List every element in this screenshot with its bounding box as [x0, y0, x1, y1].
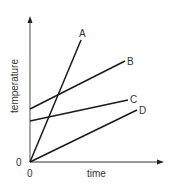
series-label-b: B [127, 56, 134, 67]
origin-label-x: 0 [27, 168, 33, 179]
series-line-b [30, 61, 125, 109]
series-label-c: C [130, 94, 137, 105]
series-label-d: D [139, 105, 146, 116]
origin-label-y: 0 [16, 157, 22, 168]
x-axis-arrow-icon [157, 160, 164, 165]
y-axis-arrow-icon [28, 16, 33, 23]
chart-canvas: A B C D time temperature 0 0 [0, 0, 171, 184]
series-label-a: A [79, 28, 86, 39]
y-axis-label: temperature [9, 59, 20, 113]
series-line-a [30, 40, 81, 162]
series-line-c [30, 100, 128, 121]
x-axis-label: time [87, 168, 106, 179]
